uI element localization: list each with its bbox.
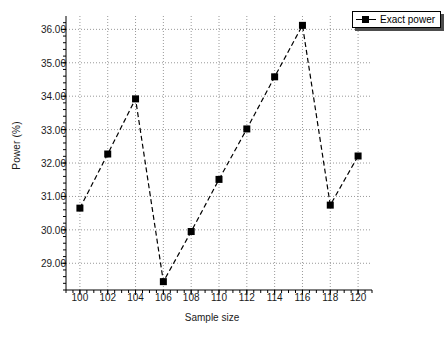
data-point-marker <box>299 22 306 29</box>
x-axis-tick-labels: 100102104106108110112114116118120 <box>0 292 448 308</box>
data-point-marker <box>243 125 250 132</box>
data-point-marker <box>160 278 167 285</box>
data-point-marker <box>132 95 139 102</box>
x-axis-tick-label: 108 <box>183 292 200 303</box>
chart-legend[interactable]: Exact power <box>352 11 441 28</box>
x-axis-tick-label: 106 <box>155 292 172 303</box>
axis-tick-marks <box>61 23 372 295</box>
x-axis-tick-label: 112 <box>239 292 255 303</box>
x-axis-tick-label: 102 <box>99 292 116 303</box>
data-point-marker <box>327 202 334 209</box>
chart-figure: Power (%) 29.0030.0031.0032.0033.0034.00… <box>0 0 448 338</box>
x-axis-tick-label: 118 <box>322 292 338 303</box>
data-point-marker <box>76 205 83 212</box>
x-axis-title: Sample size <box>62 312 362 323</box>
legend-marker-icon <box>356 15 376 25</box>
data-point-marker <box>216 176 223 183</box>
legend-label-exact-power: Exact power <box>380 14 435 25</box>
data-point-marker <box>188 228 195 235</box>
x-axis-tick-label: 120 <box>350 292 367 303</box>
axis-lines <box>66 16 372 290</box>
x-axis-tick-label: 114 <box>267 292 283 303</box>
data-point-marker <box>104 151 111 158</box>
x-axis-tick-label: 104 <box>127 292 144 303</box>
x-axis-tick-label: 110 <box>211 292 227 303</box>
series-line-exact-power <box>80 25 358 281</box>
data-point-marker <box>271 73 278 80</box>
grid-lines <box>66 16 372 290</box>
x-axis-tick-label: 116 <box>294 292 310 303</box>
plot-canvas <box>0 0 448 338</box>
data-point-marker <box>355 153 362 160</box>
x-axis-tick-label: 100 <box>72 292 89 303</box>
